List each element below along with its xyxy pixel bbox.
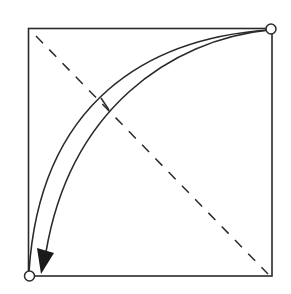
arc-tick-mark: [101, 98, 109, 110]
corner-point-top-right: [266, 24, 276, 34]
arrowhead-icon: [37, 248, 54, 274]
fold-diagram: [0, 0, 291, 294]
dashed-diagonal: [36, 36, 268, 274]
inner-arc: [46, 30, 269, 252]
corner-point-bottom-left: [25, 271, 35, 281]
